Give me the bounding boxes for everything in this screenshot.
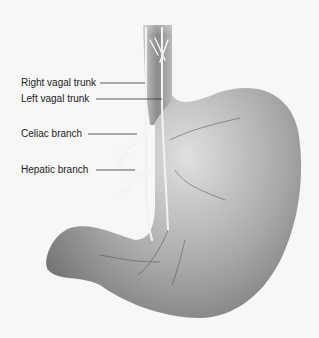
label-celiac-branch: Celiac branch xyxy=(21,128,82,140)
label-right-vagal-trunk: Right vagal trunk xyxy=(21,77,96,89)
label-hepatic-branch: Hepatic branch xyxy=(21,164,88,176)
label-left-vagal-trunk: Left vagal trunk xyxy=(21,93,89,105)
